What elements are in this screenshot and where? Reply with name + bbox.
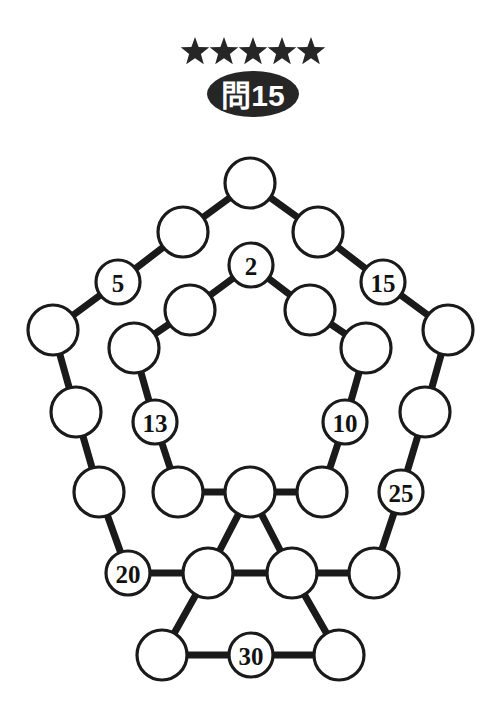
node-circle[interactable]	[183, 548, 233, 598]
star-icon	[297, 37, 326, 64]
node-label: 15	[371, 270, 396, 297]
node-circle[interactable]	[153, 467, 203, 517]
puzzle-node-filled[interactable]: 5	[96, 260, 140, 304]
badge-label: 問15	[221, 79, 284, 112]
puzzle-node-empty[interactable]	[225, 158, 275, 208]
puzzle-node-empty[interactable]	[285, 285, 335, 335]
node-layer: 52015252131030	[28, 158, 473, 680]
node-label: 10	[333, 410, 358, 437]
node-circle[interactable]	[400, 387, 450, 437]
puzzle-node-empty[interactable]	[293, 207, 343, 257]
puzzle-node-filled[interactable]: 25	[379, 470, 423, 514]
node-circle[interactable]	[341, 323, 391, 373]
node-label: 5	[112, 270, 125, 297]
star-icon	[210, 37, 239, 64]
node-circle[interactable]	[165, 285, 215, 335]
puzzle-node-empty[interactable]	[158, 207, 208, 257]
node-label: 2	[245, 253, 258, 280]
star-icon	[239, 37, 268, 64]
node-circle[interactable]	[28, 305, 78, 355]
puzzle-node-filled[interactable]: 13	[133, 400, 177, 444]
puzzle-node-filled[interactable]: 30	[229, 633, 273, 677]
node-circle[interactable]	[285, 285, 335, 335]
star-icon	[181, 37, 210, 64]
node-circle[interactable]	[137, 630, 187, 680]
puzzle-page: 問15 52015252131030	[0, 0, 501, 710]
puzzle-node-empty[interactable]	[341, 323, 391, 373]
node-label: 13	[143, 410, 168, 437]
difficulty-star-row	[181, 37, 326, 64]
puzzle-node-empty[interactable]	[423, 305, 473, 355]
node-circle[interactable]	[267, 548, 317, 598]
node-circle[interactable]	[225, 467, 275, 517]
puzzle-node-empty[interactable]	[137, 630, 187, 680]
puzzle-node-empty[interactable]	[349, 548, 399, 598]
puzzle-node-empty[interactable]	[225, 467, 275, 517]
puzzle-node-filled[interactable]: 15	[361, 260, 405, 304]
node-circle[interactable]	[423, 305, 473, 355]
puzzle-node-empty[interactable]	[109, 323, 159, 373]
node-label: 30	[239, 643, 264, 670]
puzzle-node-filled[interactable]: 20	[106, 551, 150, 595]
node-circle[interactable]	[225, 158, 275, 208]
node-circle[interactable]	[109, 323, 159, 373]
node-circle[interactable]	[297, 467, 347, 517]
puzzle-node-empty[interactable]	[314, 630, 364, 680]
star-icon	[268, 37, 297, 64]
question-badge: 問15	[207, 71, 299, 117]
puzzle-node-empty[interactable]	[183, 548, 233, 598]
node-label: 20	[116, 561, 141, 588]
puzzle-node-empty[interactable]	[51, 387, 101, 437]
node-circle[interactable]	[349, 548, 399, 598]
node-circle[interactable]	[74, 467, 124, 517]
puzzle-canvas: 問15 52015252131030	[0, 0, 501, 710]
node-circle[interactable]	[158, 207, 208, 257]
puzzle-node-empty[interactable]	[153, 467, 203, 517]
node-circle[interactable]	[293, 207, 343, 257]
node-circle[interactable]	[314, 630, 364, 680]
puzzle-node-empty[interactable]	[165, 285, 215, 335]
puzzle-node-empty[interactable]	[297, 467, 347, 517]
puzzle-node-empty[interactable]	[28, 305, 78, 355]
puzzle-node-empty[interactable]	[74, 467, 124, 517]
puzzle-node-empty[interactable]	[400, 387, 450, 437]
node-label: 25	[389, 480, 414, 507]
puzzle-node-filled[interactable]: 2	[229, 243, 273, 287]
node-circle[interactable]	[51, 387, 101, 437]
puzzle-node-empty[interactable]	[267, 548, 317, 598]
puzzle-node-filled[interactable]: 10	[323, 400, 367, 444]
